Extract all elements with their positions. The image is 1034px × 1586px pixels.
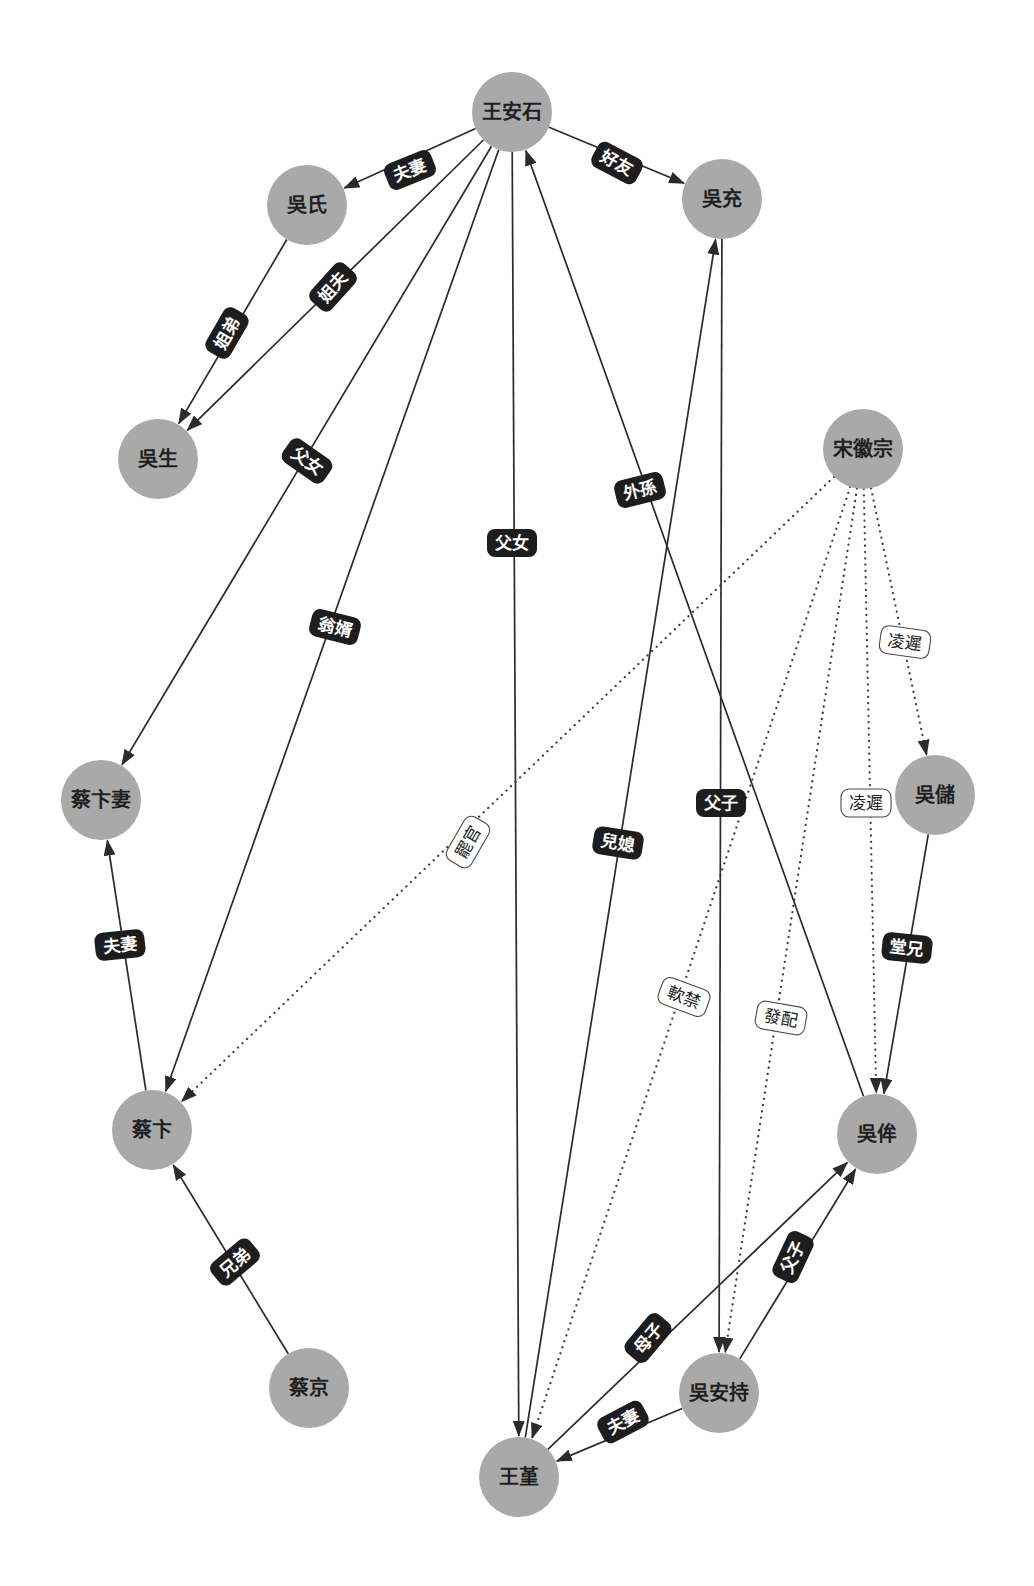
relationship-edge <box>871 488 927 755</box>
relationship-label-text: 堂兄 <box>889 936 925 959</box>
relationship-label: 父女 <box>278 435 335 487</box>
relationship-label-text: 父女 <box>494 533 529 553</box>
relationship-label: 父女 <box>487 529 537 557</box>
relationship-label: 堂兄 <box>881 931 934 964</box>
relationship-diagram: 王安石吳氏吳充吳生宋徽宗蔡卞妻吳儲蔡卞吳侔蔡京吳安持王堇 夫妻好友姐弟姐夫父女翁… <box>0 0 1034 1586</box>
relationship-edge <box>884 834 928 1093</box>
relationship-label-text: 父子 <box>703 793 738 813</box>
person-node: 吳氏 <box>267 165 347 245</box>
person-node: 宋徽宗 <box>823 409 903 489</box>
relationship-label-dotted: 凌遲 <box>878 625 931 660</box>
person-node: 王安石 <box>472 72 552 152</box>
relationship-label: 父子 <box>770 1228 817 1285</box>
relationship-label-text: 凌遲 <box>849 793 883 813</box>
person-node-label: 蔡京 <box>288 1376 329 1400</box>
relationship-label: 好友 <box>588 139 645 187</box>
graph-canvas: 王安石吳氏吳充吳生宋徽宗蔡卞妻吳儲蔡卞吳侔蔡京吳安持王堇 夫妻好友姐弟姐夫父女翁… <box>0 0 1034 1586</box>
relationship-label: 母子 <box>621 1310 675 1366</box>
person-node: 吳安持 <box>679 1353 759 1433</box>
person-node-label: 吳侔 <box>857 1122 897 1146</box>
relationship-edge <box>725 489 857 1353</box>
relationship-label: 父子 <box>696 789 746 817</box>
relationship-label-dotted: 凌遲 <box>841 789 891 817</box>
person-node: 蔡卞 <box>112 1090 192 1170</box>
relationship-label: 外孫 <box>612 470 667 509</box>
person-node-label: 吳安持 <box>689 1381 749 1405</box>
relationship-label-dotted: 發配 <box>754 1000 808 1036</box>
person-node: 蔡卞妻 <box>61 760 141 840</box>
person-node: 吳儲 <box>895 755 975 835</box>
person-node-label: 吳充 <box>702 187 742 211</box>
relationship-label-text: 夫妻 <box>102 933 138 956</box>
person-node-label: 吳生 <box>138 447 178 471</box>
relationship-label-dotted: 罷官 <box>443 813 492 870</box>
relationship-label: 兒媳 <box>591 825 645 860</box>
relationship-label: 翁婿 <box>307 607 362 646</box>
person-node: 吳生 <box>118 419 198 499</box>
relationship-edge <box>107 841 146 1091</box>
relationship-edge <box>512 152 519 1436</box>
person-node: 王堇 <box>479 1437 559 1517</box>
person-node: 吳侔 <box>837 1094 917 1174</box>
relationship-label: 兄弟 <box>207 1235 263 1289</box>
relationship-edge <box>532 487 850 1438</box>
person-node-label: 吳氏 <box>287 193 327 217</box>
relationship-label: 夫妻 <box>594 1398 651 1446</box>
relationship-label: 夫妻 <box>94 928 147 961</box>
relationship-edge <box>526 151 864 1097</box>
person-node-label: 蔡卞 <box>131 1118 172 1142</box>
relationship-label-dotted: 軟禁 <box>656 975 713 1018</box>
person-node-label: 蔡卞妻 <box>70 788 131 812</box>
person-node-label: 宋徽宗 <box>833 437 893 461</box>
person-node: 蔡京 <box>269 1348 349 1428</box>
person-node-label: 王安石 <box>482 100 542 124</box>
relationship-label: 夫妻 <box>382 148 439 193</box>
person-node-label: 吳儲 <box>915 783 955 807</box>
person-node: 吳充 <box>682 159 762 239</box>
person-node-label: 王堇 <box>499 1465 539 1489</box>
